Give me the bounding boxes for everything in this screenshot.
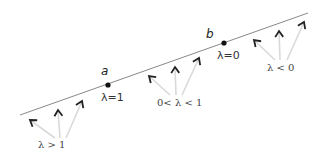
region-label-lambda-gt-1: λ > 1: [38, 140, 65, 150]
arrow-icon: [66, 101, 83, 138]
arrow-icon: [287, 22, 305, 60]
point-b-lambda-label: λ=0: [217, 50, 240, 61]
point-b-dot: [221, 40, 226, 45]
arrow-icon: [275, 31, 283, 60]
region-label-lambda-lt-0: λ < 0: [267, 63, 294, 73]
arrow-icon: [149, 76, 170, 95]
point-a-lambda-label: λ=1: [101, 92, 124, 103]
points-group: [105, 40, 226, 87]
arrow-icon: [54, 110, 62, 138]
arrow-icon: [182, 58, 200, 95]
arrows-group: [30, 22, 305, 138]
point-a-dot: [105, 82, 110, 87]
convex-combination-diagram: [0, 0, 321, 159]
arrow-icon: [171, 67, 179, 95]
arrow-icon: [254, 40, 275, 60]
arrow-icon: [30, 120, 55, 138]
region-label-lambda-between-0-1: 0< λ < 1: [157, 98, 202, 108]
point-a-label: a: [101, 65, 108, 77]
point-b-label: b: [206, 28, 214, 40]
